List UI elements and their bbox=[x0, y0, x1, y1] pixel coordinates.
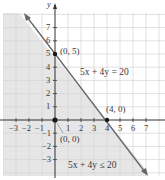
y-tick-label: 3 bbox=[46, 76, 50, 85]
x-tick-label: 7 bbox=[144, 124, 148, 133]
coordinate-plane bbox=[0, 0, 165, 180]
x-tick-label: −2 bbox=[22, 124, 31, 133]
equation-label: 5x + 4y = 20 bbox=[80, 68, 129, 78]
y-tick-label: 1 bbox=[46, 102, 50, 111]
shaded-region bbox=[3, 13, 146, 176]
x-tick-label: 1 bbox=[66, 124, 70, 133]
x-tick-label: 3 bbox=[92, 124, 96, 133]
point-0-5 bbox=[53, 52, 57, 56]
y-axis-label: y bbox=[47, 0, 51, 9]
point-4-0 bbox=[105, 118, 109, 122]
y-tick-label: −1 bbox=[42, 129, 51, 138]
x-tick-label: 4 bbox=[105, 124, 109, 133]
point-label-0-0: (0, 0) bbox=[60, 135, 80, 144]
y-tick-label: 7 bbox=[46, 23, 50, 32]
point-0-0 bbox=[52, 117, 57, 122]
inequality-label: 5x + 4y ≤ 20 bbox=[68, 161, 117, 171]
y-tick-label: 2 bbox=[46, 89, 50, 98]
x-tick-label: 6 bbox=[131, 124, 135, 133]
y-tick-label: 5 bbox=[46, 49, 50, 58]
point-label-0-5: (0, 5) bbox=[60, 47, 80, 56]
y-axis-arrow-icon bbox=[53, 3, 57, 9]
x-tick-label: 2 bbox=[79, 124, 83, 133]
y-tick-label: 6 bbox=[46, 36, 50, 45]
y-tick-label: 4 bbox=[46, 63, 50, 72]
point-label-4-0: (4, 0) bbox=[106, 105, 126, 114]
x-tick-label: −3 bbox=[9, 124, 18, 133]
y-tick-label: −2 bbox=[42, 142, 51, 151]
x-tick-label: 5 bbox=[118, 124, 122, 133]
y-tick-label: −3 bbox=[42, 155, 51, 164]
